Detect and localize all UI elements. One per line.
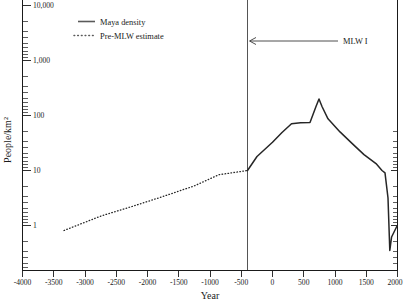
x-tick-label: 500 [298, 278, 310, 287]
series-maya-density [248, 99, 398, 251]
y-tick-label: 10 [33, 166, 41, 175]
x-axis-title: Year [201, 290, 220, 301]
axis-frame [23, 0, 398, 271]
chart-figure: 10,000 1,000 100 10 1 People/km² [0, 0, 407, 302]
y-axis-ticks [23, 6, 398, 268]
x-axis-tick-labels: -4000 -3500 -3000 -2500 -2000 -1500 -100… [14, 278, 403, 287]
x-tick-label: 1000 [327, 278, 342, 287]
y-axis-tick-labels: 10,000 1,000 100 10 1 [33, 1, 54, 230]
x-tick-label: -2500 [107, 278, 125, 287]
mlw-i-annotation: MLW I [250, 37, 368, 46]
x-tick-label: -500 [234, 278, 248, 287]
x-tick-label: -3500 [45, 278, 63, 287]
y-tick-label: 100 [33, 111, 45, 120]
data-series-group [64, 99, 397, 251]
x-axis-ticks [23, 271, 398, 277]
y-tick-label: 1,000 [33, 56, 50, 65]
x-tick-label: 2000 [387, 278, 402, 287]
x-tick-label: 1500 [359, 278, 374, 287]
series-pre-mlw-estimate [64, 171, 248, 231]
legend-label-maya-density: Maya density [100, 18, 146, 27]
plot-frame-path [23, 0, 398, 271]
legend-label-pre-mlw-estimate: Pre-MLW estimate [100, 32, 164, 41]
y-axis-title: People/km² [2, 117, 13, 163]
chart-legend: Maya density Pre-MLW estimate [74, 18, 164, 41]
y-tick-label: 10,000 [33, 1, 54, 10]
mlw-i-label: MLW I [343, 37, 368, 46]
x-tick-label: -3000 [76, 278, 94, 287]
x-tick-label: -1500 [170, 278, 188, 287]
y-tick-label: 1 [33, 221, 37, 230]
population-density-line-chart: 10,000 1,000 100 10 1 People/km² [0, 0, 407, 302]
y-axis-title-group: People/km² [2, 117, 13, 163]
x-tick-label: 0 [271, 278, 275, 287]
x-tick-label: -2000 [139, 278, 157, 287]
x-tick-label: -4000 [14, 278, 32, 287]
x-tick-label: -1000 [201, 278, 219, 287]
